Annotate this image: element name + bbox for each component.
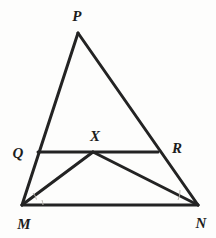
cevians-from-X xyxy=(22,152,198,205)
vertex-label-n: N xyxy=(195,216,206,231)
angle-marks xyxy=(33,190,180,205)
segment-XN xyxy=(93,152,198,205)
vertex-label-x: X xyxy=(90,129,100,144)
vertex-label-r: R xyxy=(172,141,182,156)
segment-PN xyxy=(78,33,198,205)
geometry-canvas xyxy=(0,0,216,238)
triangle-PMN xyxy=(22,33,198,205)
vertex-label-q: Q xyxy=(12,146,23,161)
segment-PM xyxy=(22,33,78,205)
segment-XM xyxy=(22,152,93,205)
vertex-label-m: M xyxy=(17,217,31,232)
geometry-figure: P M N Q R X xyxy=(0,0,216,238)
vertex-label-p: P xyxy=(72,9,81,24)
